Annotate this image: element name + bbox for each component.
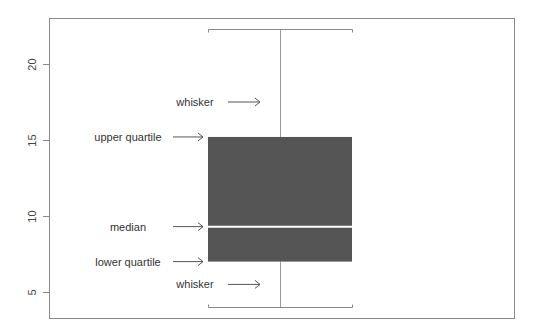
y-tick-label: 5 <box>26 289 38 295</box>
boxplot-chart: 5101520 whiskerupper quartilemedianlower… <box>0 0 538 333</box>
arrow-right-icon <box>228 98 260 106</box>
annotation-whisker: whisker <box>175 278 260 290</box>
y-tick-label: 15 <box>26 134 38 146</box>
arrow-right-icon <box>173 223 203 231</box>
annotation-label: median <box>110 221 146 233</box>
arrow-right-icon <box>228 280 260 288</box>
y-axis: 5101520 <box>26 58 50 295</box>
arrow-right-icon <box>173 258 203 266</box>
y-tick-label: 10 <box>26 210 38 222</box>
arrow-right-icon <box>173 133 203 141</box>
annotation-whisker: whisker <box>175 96 260 108</box>
annotation-lower-quartile: lower quartile <box>95 256 203 268</box>
annotation-label: upper quartile <box>94 131 161 143</box>
interquartile-box <box>208 137 352 262</box>
y-tick-label: 20 <box>26 58 38 70</box>
annotation-label: lower quartile <box>95 256 160 268</box>
annotation-label: whisker <box>175 278 214 290</box>
annotation-upper-quartile: upper quartile <box>94 131 203 143</box>
annotation-median: median <box>110 221 203 233</box>
annotation-label: whisker <box>175 96 214 108</box>
